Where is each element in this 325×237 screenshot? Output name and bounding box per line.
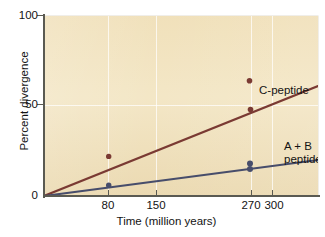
series-graphics xyxy=(44,16,318,196)
x-axis-label-270: 270 xyxy=(241,199,260,211)
x-axis-tick-80 xyxy=(108,190,109,197)
y-axis-tick-50 xyxy=(37,104,44,105)
datapoint-c-peptide xyxy=(247,78,253,84)
datapoint-ab-peptides xyxy=(247,166,253,172)
y-axis-title: Percent divergence xyxy=(18,26,30,176)
x-axis-tick-270 xyxy=(251,190,252,197)
x-axis-label-300: 300 xyxy=(264,199,283,211)
trendline-ab-peptides xyxy=(44,160,318,196)
y-axis-tick-100 xyxy=(37,15,44,16)
datapoint-c-peptide xyxy=(106,154,111,159)
y-axis-line xyxy=(43,14,45,198)
x-axis-label-150: 150 xyxy=(146,199,165,211)
datapoint-ab-peptides xyxy=(106,183,111,188)
chart-figure: C-peptide A + B peptides 100 50 0 80 150… xyxy=(0,0,325,237)
datapoint-c-peptide xyxy=(248,107,254,113)
x-axis-tick-300 xyxy=(272,190,273,197)
x-axis-title: Time (million years) xyxy=(44,215,289,227)
datapoint-ab-peptides xyxy=(247,161,253,167)
y-axis-label-0: 0 xyxy=(32,190,38,202)
x-axis-label-80: 80 xyxy=(102,199,115,211)
x-axis-tick-150 xyxy=(156,190,157,197)
series-label-ab-peptides: A + B peptides xyxy=(284,140,318,166)
plot-area: C-peptide A + B peptides xyxy=(44,16,318,196)
x-axis-line xyxy=(43,195,320,197)
y-axis-label-100: 100 xyxy=(19,10,38,22)
series-label-c-peptide: C-peptide xyxy=(259,84,309,97)
trendline-c-peptide xyxy=(44,86,318,196)
